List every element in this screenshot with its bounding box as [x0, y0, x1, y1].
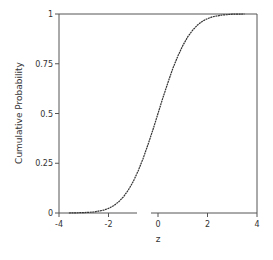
x-tick-label: 0 — [155, 220, 160, 229]
y-axis-ticks: 00.250.50.751 — [35, 10, 59, 218]
x-tick-label: -4 — [55, 220, 63, 229]
cdf-curve — [69, 14, 245, 213]
y-tick-label: 0.5 — [40, 110, 53, 119]
y-tick-label: 0.75 — [35, 60, 53, 69]
x-axis-ticks: -4-2024 — [55, 213, 260, 229]
x-tick-label: 4 — [254, 220, 259, 229]
x-tick-label: -2 — [105, 220, 113, 229]
y-axis-label: Cumulative Probability — [14, 61, 24, 163]
y-tick-label: 0.25 — [35, 159, 53, 168]
x-axis-label: z — [156, 234, 161, 244]
cdf-chart: 00.250.50.751 -4-2024 z Cumulative Proba… — [0, 0, 273, 260]
x-tick-label: 2 — [205, 220, 210, 229]
y-tick-label: 1 — [48, 10, 53, 19]
y-tick-label: 0 — [48, 209, 53, 218]
